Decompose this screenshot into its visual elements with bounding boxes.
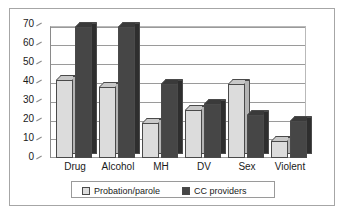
- bar-front-face: [228, 84, 245, 158]
- bar-ccproviders-sex: [247, 115, 264, 158]
- x-tick-label-violent: Violent: [267, 161, 313, 173]
- x-tick-label-alcohol: Alcohol: [97, 161, 139, 173]
- bar-probation-drug: [56, 80, 73, 158]
- bar-front-face: [271, 141, 288, 158]
- bar-front-face: [290, 121, 307, 158]
- bar-probation-dv: [185, 110, 202, 158]
- y-tick-label: 0: [28, 152, 34, 162]
- legend-swatch-icon: [182, 187, 190, 195]
- y-tick-label: 20: [23, 114, 34, 124]
- y-tick-label: 40: [23, 76, 34, 86]
- bar-group-violent: [269, 26, 311, 158]
- bar-group-drug: [54, 26, 96, 158]
- legend-label-ccproviders: CC providers: [194, 186, 247, 196]
- y-tick-dash: [36, 61, 42, 65]
- bar-probation-mh: [142, 123, 159, 158]
- x-tick-label-mh: MH: [140, 161, 182, 173]
- legend-label-probation: Probation/parole: [94, 186, 160, 196]
- y-tick-dash: [36, 42, 42, 46]
- y-tick-dash: [36, 156, 42, 160]
- y-tick-dash: [36, 99, 42, 103]
- chart-legend: Probation/parole CC providers: [71, 181, 275, 198]
- bar-front-face: [118, 27, 135, 158]
- y-tick-label: 70: [23, 19, 34, 29]
- bar-ccproviders-mh: [161, 84, 178, 158]
- bar-group-mh: [140, 26, 182, 158]
- bar-probation-violent: [271, 141, 288, 158]
- legend-swatch-icon: [82, 187, 90, 195]
- y-tick-label: 30: [23, 95, 34, 105]
- y-tick-label: 60: [23, 38, 34, 48]
- x-tick-label-drug: Drug: [54, 161, 96, 173]
- bar-front-face: [204, 104, 221, 158]
- bar-front-face: [56, 80, 73, 158]
- x-axis: Drug Alcohol MH DV Sex Violent: [50, 161, 306, 177]
- bar-front-face: [142, 123, 159, 158]
- x-tick-label-dv: DV: [183, 161, 225, 173]
- bar-side-face: [307, 117, 312, 154]
- bar-probation-alcohol: [99, 87, 116, 158]
- legend-entry-probation: Probation/parole: [82, 185, 160, 196]
- bar-front-face: [247, 115, 264, 158]
- bar-ccproviders-alcohol: [118, 27, 135, 158]
- bar-front-face: [75, 27, 92, 158]
- y-tick-label: 50: [23, 57, 34, 67]
- plot-area: [50, 26, 306, 158]
- chart-frame: 70 60 50 40 30 20 10 0: [9, 8, 335, 206]
- bar-group-dv: [183, 26, 225, 158]
- y-tick-dash: [36, 118, 42, 122]
- bar-front-face: [161, 84, 178, 158]
- y-tick-label: 10: [23, 133, 34, 143]
- bar-front-face: [99, 87, 116, 158]
- bar-ccproviders-drug: [75, 27, 92, 158]
- y-tick-dash: [36, 23, 42, 27]
- legend-entry-ccproviders: CC providers: [182, 185, 247, 196]
- bar-ccproviders-dv: [204, 104, 221, 158]
- x-tick-label-sex: Sex: [226, 161, 268, 173]
- bar-group-alcohol: [97, 26, 139, 158]
- bar-ccproviders-violent: [290, 121, 307, 158]
- bar-group-sex: [226, 26, 268, 158]
- bar-front-face: [185, 110, 202, 158]
- bar-probation-sex: [228, 84, 245, 158]
- y-tick-dash: [36, 137, 42, 141]
- y-tick-dash: [36, 80, 42, 84]
